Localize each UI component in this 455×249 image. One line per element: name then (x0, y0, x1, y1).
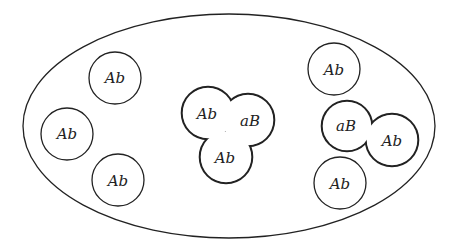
cell-left-middle: Ab (41, 108, 93, 160)
genotype-label: Ab (380, 132, 402, 150)
genotype-label: aB (336, 117, 356, 135)
cell-left-top: Ab (89, 52, 141, 104)
genotype-label: Ab (195, 105, 217, 123)
genotype-label: Ab (103, 69, 125, 87)
genotype-label: Ab (213, 149, 235, 167)
cluster-center: Ab aB Ab (182, 87, 274, 183)
genotype-label: Ab (55, 125, 77, 143)
genotype-label: Ab (322, 61, 344, 79)
cell-right-bottom: Ab (314, 157, 366, 209)
cluster-right: aB Ab (322, 101, 418, 166)
genotype-label: Ab (106, 172, 128, 190)
cell-left-bottom: Ab (92, 154, 144, 206)
genotype-label: aB (240, 112, 260, 130)
cell-right-top: Ab (308, 43, 360, 95)
genotype-label: Ab (328, 175, 350, 193)
diagram-canvas: Ab Ab Ab Ab Ab Ab aB Ab aB Ab (0, 0, 455, 249)
